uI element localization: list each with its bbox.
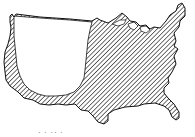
map-caption: · · ·· ·: [38, 129, 64, 136]
unshaded-region: [14, 16, 92, 96]
us-map: [0, 0, 195, 137]
